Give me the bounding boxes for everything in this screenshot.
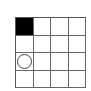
cell-r3-c0[interactable] [16,71,34,89]
cell-r3-c2[interactable] [51,71,69,89]
cell-r2-c2[interactable] [51,53,69,71]
cell-r1-c1[interactable] [34,36,52,54]
cell-r2-c1[interactable] [34,53,52,71]
cell-r3-c3[interactable] [69,71,87,89]
cell-r1-c3[interactable] [69,36,87,54]
game-board [15,17,86,88]
cell-r1-c0[interactable] [16,36,34,54]
cell-r1-c2[interactable] [51,36,69,54]
circle-piece-icon [17,54,32,69]
cell-r2-c3[interactable] [69,53,87,71]
cell-r2-c0[interactable] [16,53,34,71]
cell-r0-c3[interactable] [69,18,87,36]
cell-r0-c0[interactable] [16,18,34,36]
cell-r0-c1[interactable] [34,18,52,36]
cell-r0-c2[interactable] [51,18,69,36]
cell-r3-c1[interactable] [34,71,52,89]
